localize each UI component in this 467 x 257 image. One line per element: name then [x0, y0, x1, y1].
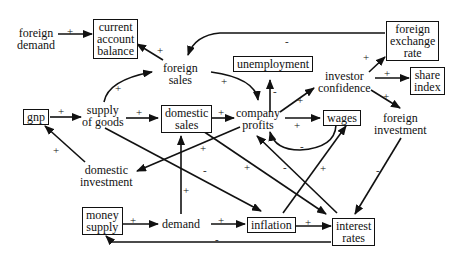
sign-wages-cp: - [300, 141, 304, 152]
sign-ic-fi: + [383, 91, 389, 102]
sign-ds-cp: + [218, 107, 224, 118]
node-supply-of-goods: supply of goods [82, 104, 124, 128]
sign-demand-inf: + [218, 215, 224, 226]
node-foreign-sales: foreign sales [163, 62, 198, 86]
sign-cp-unemp: - [273, 86, 277, 97]
node-gnp: gnp [23, 109, 49, 125]
sign-inf-ir: + [305, 217, 311, 228]
sign-di-gnp: + [53, 145, 59, 156]
sign-fi-ir: - [376, 165, 380, 176]
node-domestic-investment: domestic investment [80, 164, 133, 188]
node-company-profits: company profits [236, 107, 280, 131]
sign-fer-fs: - [285, 36, 289, 47]
sign-ic-si: + [384, 68, 390, 79]
node-foreign-investment: foreign investment [374, 112, 427, 136]
sign-sog-fs: + [115, 83, 121, 94]
node-demand: demand [162, 218, 200, 230]
sign-ic-fer: + [363, 52, 369, 63]
node-interest-rates: interest rates [332, 218, 375, 246]
node-foreign-demand: foreign demand [17, 27, 55, 51]
sign-cp-di: + [200, 143, 206, 154]
node-money-supply: money supply [82, 207, 123, 235]
sign-ms-demand: + [130, 215, 136, 226]
node-inflation: inflation [247, 217, 296, 233]
sign-ir-cp: - [283, 162, 287, 173]
sign-sog-ds: + [136, 107, 142, 118]
sign-ds-ir: + [244, 162, 250, 173]
sign-inf-wages: + [320, 163, 326, 174]
node-share-index: share index [410, 67, 445, 95]
node-foreign-exchange-rate: foreign exchange rate [386, 21, 439, 61]
sign-fs-cab: + [157, 45, 163, 56]
sign-sog-inf: - [203, 165, 207, 176]
node-wages: wages [323, 110, 361, 126]
node-unemployment: unemployment [233, 56, 313, 72]
sign-ir-ms: - [215, 234, 219, 245]
sign-cp-ic: + [297, 95, 303, 106]
sign-gnp-sog: + [58, 106, 64, 117]
node-domestic-sales: domestic sales [161, 105, 212, 133]
sign-fs-cp: + [221, 76, 227, 87]
sign-cp-wages: + [294, 120, 300, 131]
sign-fd-cab: + [67, 26, 73, 37]
sign-demand-ds: + [183, 185, 189, 196]
node-investor-confidence: investor confidence [318, 70, 371, 94]
node-current-account-balance: current account balance [93, 19, 138, 59]
